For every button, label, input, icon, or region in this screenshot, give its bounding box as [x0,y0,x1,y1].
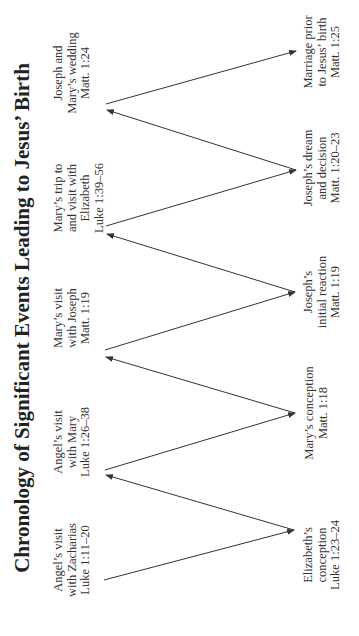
event-mary-conception: Mary’s conception Matt. 1:18 [303,366,330,459]
event-angel-zacharias: Angel’s visit with Zacharias Luke 1:11–2… [52,523,93,597]
diagram-title: Chronology of Significant Events Leading… [10,63,35,573]
event-marriage-prior-birth: Marriage prior to Jesus’ birth Matt. 1:2… [302,15,343,88]
arrow-trip-to-dream [106,170,296,226]
arrow-conception-to-visit-joseph [106,357,295,413]
event-mary-trip-elizabeth: Mary’s trip to and visit with Elizabeth … [52,163,106,233]
event-joseph-initial-reaction: Joseph’s initial reaction Matt. 1:19 [302,256,343,329]
arrow-visit-joseph-to-reaction [105,292,295,350]
event-joseph-mary-wedding: Joseph and Mary’s wedding Matt. 1:24 [52,32,93,114]
arrow-reaction-to-trip [107,234,295,292]
event-angel-mary: Angel’s visit with Mary Luke 1:26–38 [52,407,93,477]
arrow-angel-mary-to-conception [105,413,295,470]
arrow-wedding-to-marriage [106,51,296,104]
event-elizabeth-conception: Elizabeth’s conception Luke 1:23–24 [302,520,343,590]
chronology-diagram: Chronology of Significant Events Leading… [0,0,359,636]
arrow-zacharias-to-elizabeth [104,530,294,580]
arrow-elizabeth-to-angel-mary [106,475,294,530]
event-mary-visit-joseph: Mary’s visit with Joseph Matt. 1:19 [52,288,93,348]
event-joseph-dream-decision: Joseph’s dream and decision Matt. 1:20–2… [302,130,343,207]
arrow-dream-to-wedding [107,110,296,170]
